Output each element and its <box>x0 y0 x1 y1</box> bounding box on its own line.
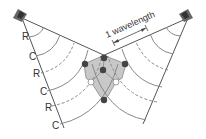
right-speaker-icon <box>179 9 193 22</box>
label-r: R <box>45 102 52 113</box>
left-speaker-icon <box>13 9 27 22</box>
right-source-line-down <box>143 18 188 124</box>
label-c: C <box>29 51 36 62</box>
wavelength-annotation: 1 wavelength <box>104 9 157 46</box>
destructive-node <box>88 79 94 85</box>
constructive-node <box>122 61 128 67</box>
constructive-node <box>82 61 88 67</box>
label-c: C <box>52 120 59 131</box>
constructive-node <box>101 55 107 61</box>
constructive-node <box>100 67 106 73</box>
label-r: R <box>22 31 29 42</box>
constructive-node <box>101 97 107 103</box>
label-r: R <box>33 68 40 79</box>
right-source-line-left <box>100 18 188 57</box>
label-c: C <box>40 86 47 97</box>
interference-diagram: 1 wavelength R C R C R C <box>0 0 206 139</box>
destructive-node <box>113 79 119 85</box>
